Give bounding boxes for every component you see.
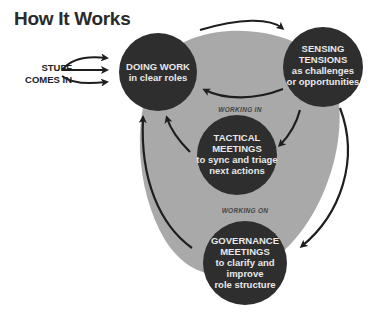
governance-heading-1: GOVERNANCE [203,235,287,246]
arrow-doing-to-sensing [200,21,282,30]
sensing-subtitle-1: as challenges [280,65,366,76]
doing-work-heading: DOING WORK [118,61,198,72]
stuff-line2: COMES IN [16,74,72,86]
governance-heading-2: MEETINGS [203,246,287,257]
sensing-tensions-text: SENSING TENSIONS as challenges or opport… [280,43,366,87]
working-in-label: WORKING IN [200,106,280,113]
tactical-subtitle-2: next actions [192,165,282,176]
sensing-subtitle-2: or opportunities [280,76,366,87]
doing-work-text: DOING WORK in clear roles [118,61,198,83]
working-on-label: WORKING ON [205,207,285,214]
stuff-comes-in-label: STUFF COMES IN [16,62,72,86]
governance-subtitle-3: role structure [203,279,287,290]
governance-subtitle-2: improve [203,268,287,279]
tactical-heading-1: TACTICAL [192,132,282,143]
tactical-heading-2: MEETINGS [192,143,282,154]
doing-work-subtitle: in clear roles [118,72,198,83]
sensing-heading-2: TENSIONS [280,54,366,65]
governance-meetings-text: GOVERNANCE MEETINGS to clarify and impro… [203,235,287,290]
tactical-subtitle-1: to sync and triage [192,154,282,165]
sensing-heading-1: SENSING [280,43,366,54]
stuff-line1: STUFF [16,62,72,74]
governance-subtitle-1: to clarify and [203,257,287,268]
tactical-meetings-text: TACTICAL MEETINGS to sync and triage nex… [192,132,282,176]
